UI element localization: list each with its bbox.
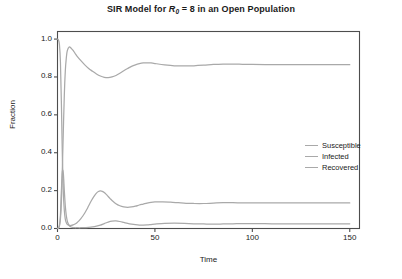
series-line-recovered xyxy=(58,47,350,229)
legend-label: Recovered xyxy=(322,163,358,172)
legend-item-recovered[interactable]: Recovered xyxy=(305,162,395,173)
legend-swatch-susceptible xyxy=(305,145,318,146)
chart-legend: SusceptibleInfectedRecovered xyxy=(305,140,395,173)
legend-label: Susceptible xyxy=(322,141,361,150)
chart-figure: SIR Model for R0 = 8 in an Open Populati… xyxy=(0,0,402,279)
legend-swatch-infected xyxy=(305,156,318,157)
legend-item-infected[interactable]: Infected xyxy=(305,151,395,162)
legend-swatch-recovered xyxy=(305,167,318,168)
series-line-infected xyxy=(58,170,350,228)
legend-label: Infected xyxy=(322,152,349,161)
plot-frame xyxy=(58,32,360,229)
series-lines xyxy=(58,39,350,228)
legend-item-susceptible[interactable]: Susceptible xyxy=(305,140,395,151)
series-line-susceptible xyxy=(58,39,350,225)
